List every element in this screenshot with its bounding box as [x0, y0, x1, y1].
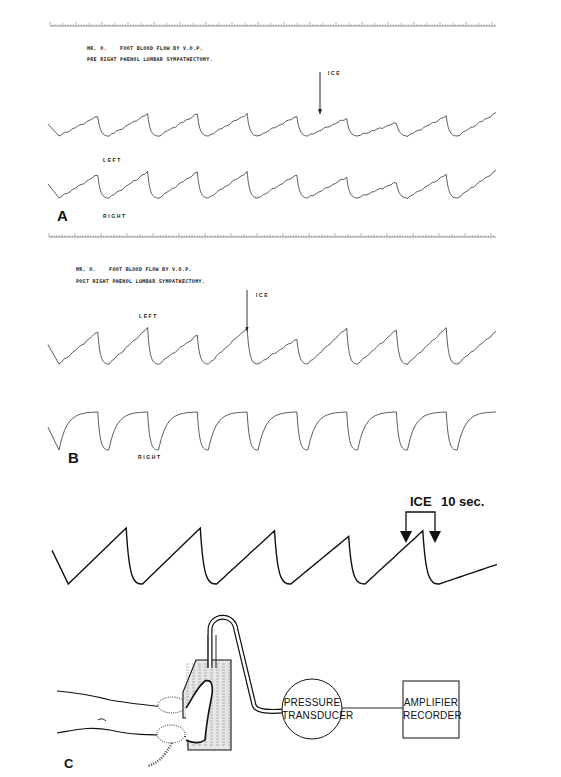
- panel-a-ice-label: ICE: [328, 70, 341, 76]
- recorder-line1: AMPLIFIER: [403, 696, 459, 709]
- recorder-line2: RECORDER: [403, 709, 459, 722]
- trace-a-right: [48, 171, 496, 199]
- trace-a-left: [48, 113, 496, 137]
- panel-b-header-line1: MR. O. FOOT BLOOD FLOW BY V.O.P.: [76, 266, 192, 272]
- amplifier-recorder-label: AMPLIFIER RECORDER: [403, 696, 459, 722]
- trace-c: [52, 528, 497, 584]
- cuff-tube: [148, 743, 172, 766]
- transducer-line1: PRESSURE: [282, 696, 342, 709]
- ice-arrow-b: [246, 290, 249, 332]
- panel-b-ice-label: ICE: [256, 292, 269, 298]
- panel-c-letter: C: [64, 756, 73, 771]
- ice-arrow-a: [318, 72, 322, 115]
- panel-a-letter: A: [57, 207, 68, 224]
- upper-cuff: [158, 697, 186, 713]
- panel-a-header-line1: MR. O. FOOT BLOOD FLOW BY V.O.P.: [87, 45, 203, 51]
- trace-b-left: [48, 327, 496, 364]
- panel-a-header-line2: PRE RIGHT PHENOL LUMBAR SYMPATHECTOMY.: [87, 56, 213, 62]
- panel-b-letter: B: [68, 449, 79, 466]
- panel-c-interval-label: 10 sec.: [441, 494, 484, 509]
- pressure-transducer-label: PRESSURE TRANSDUCER: [282, 696, 342, 722]
- panel-b-header-line2: POST RIGHT PHENOL LUMBAR SYMPATHECTOMY.: [76, 278, 205, 284]
- panel-c-ice-label: ICE: [410, 494, 432, 509]
- vop-apparatus-diagram: [57, 617, 459, 766]
- trace-b-right: [48, 412, 496, 450]
- panel-a-left-label: LEFT: [103, 157, 122, 163]
- panel-b-right-label: RIGHT: [138, 454, 162, 460]
- panel-a-right-label: RIGHT: [103, 213, 127, 219]
- ice-bracket-c: [400, 512, 441, 543]
- time-ruler-top-a: [50, 22, 496, 26]
- figure-canvas: [0, 0, 561, 777]
- time-ruler-bottom-a: [49, 233, 496, 237]
- transducer-line2: TRANSDUCER: [282, 709, 342, 722]
- panel-b-left-label: LEFT: [139, 313, 158, 319]
- lower-cuff: [157, 725, 185, 743]
